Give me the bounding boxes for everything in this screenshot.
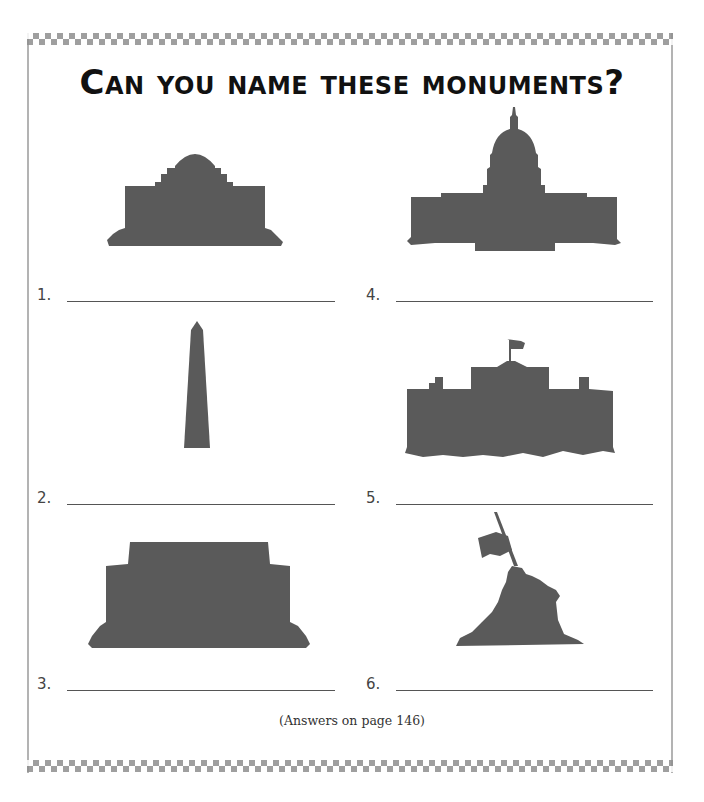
obelisk-icon bbox=[182, 320, 212, 450]
flagged-mansion-silhouette bbox=[403, 337, 615, 461]
checkered-border-top bbox=[27, 33, 673, 45]
obelisk-silhouette bbox=[182, 320, 212, 450]
answer-number: 5. bbox=[366, 489, 380, 507]
answer-number: 1. bbox=[37, 286, 51, 304]
flag-raising-statue-icon bbox=[452, 510, 592, 650]
answer-blank-1[interactable] bbox=[67, 301, 335, 302]
answer-blank-3[interactable] bbox=[67, 690, 335, 691]
answer-number: 3. bbox=[37, 675, 51, 693]
capitol-dome-silhouette bbox=[405, 105, 625, 253]
domed-memorial-icon bbox=[105, 138, 285, 248]
answer-blank-4[interactable] bbox=[396, 301, 653, 302]
answer-blank-5[interactable] bbox=[396, 504, 653, 505]
checkered-border-bottom bbox=[27, 760, 673, 772]
flagged-mansion-icon bbox=[403, 337, 615, 461]
answer-blank-2[interactable] bbox=[67, 504, 335, 505]
answers-note: (Answers on page 146) bbox=[0, 713, 704, 728]
domed-memorial-silhouette bbox=[105, 138, 285, 248]
page-title: Can you name these monuments? bbox=[0, 64, 704, 100]
columned-memorial-icon bbox=[86, 540, 312, 650]
answer-row-4: 4. bbox=[366, 286, 653, 310]
answer-row-2: 2. bbox=[37, 489, 335, 513]
answer-number: 2. bbox=[37, 489, 51, 507]
answer-row-1: 1. bbox=[37, 286, 335, 310]
answer-row-6: 6. bbox=[366, 675, 653, 699]
answer-number: 4. bbox=[366, 286, 380, 304]
columned-memorial-silhouette bbox=[86, 540, 312, 650]
answer-row-3: 3. bbox=[37, 675, 335, 699]
answer-number: 6. bbox=[366, 675, 380, 693]
capitol-dome-icon bbox=[405, 105, 625, 253]
flag-raising-statue-silhouette bbox=[452, 510, 592, 650]
answer-blank-6[interactable] bbox=[396, 690, 653, 691]
